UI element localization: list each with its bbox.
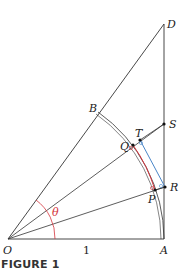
- point-S: [162, 122, 165, 125]
- figure-caption: FIGURE 1: [1, 258, 60, 271]
- red-segment-QP: [133, 145, 155, 190]
- segment-TS: [140, 124, 164, 140]
- label-Q: Q: [120, 140, 129, 153]
- label-theta: θ: [52, 206, 59, 219]
- label-O: O: [3, 244, 12, 257]
- label-unit-length: 1: [83, 244, 90, 257]
- label-S: S: [169, 118, 177, 131]
- ray-OR: [8, 187, 165, 239]
- point-Q: [131, 143, 134, 146]
- geometry-diagram: D B S T Q R P O A 1 θ: [0, 0, 187, 275]
- marker-R: [159, 184, 162, 187]
- label-B: B: [88, 102, 97, 115]
- label-A: A: [159, 244, 168, 257]
- point-R: [163, 185, 166, 188]
- label-D: D: [166, 18, 176, 31]
- label-R: R: [169, 181, 178, 194]
- label-P: P: [147, 193, 156, 206]
- point-P: [153, 188, 156, 191]
